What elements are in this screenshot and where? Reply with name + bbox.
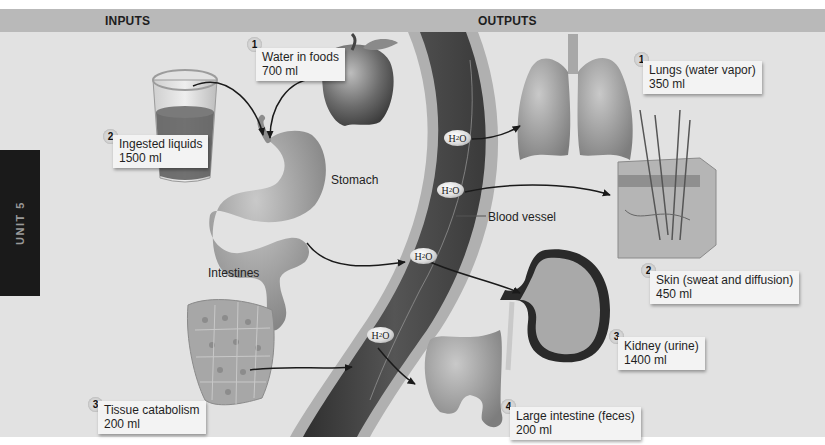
input-name: Ingested liquids: [119, 137, 202, 151]
input-callout-tissue-catabolism: Tissue catabolism 200 ml: [98, 401, 206, 434]
output-callout-large-intestine: Large intestine (feces) 200 ml: [510, 407, 641, 440]
output-name: Large intestine (feces): [516, 409, 635, 423]
input-name: Tissue catabolism: [104, 403, 200, 417]
output-amount: 450 ml: [656, 287, 793, 301]
water-molecule-badge: H2O: [367, 327, 394, 343]
output-amount: 1400 ml: [624, 353, 699, 367]
input-amount: 700 ml: [262, 64, 339, 78]
large-intestine-illustration: [425, 330, 503, 427]
blood-vessel-label: Blood vessel: [488, 210, 556, 224]
lungs-illustration: [518, 34, 633, 160]
output-callout-lungs: Lungs (water vapor) 350 ml: [643, 61, 762, 94]
water-molecule-badge: H2O: [444, 130, 471, 146]
intestines-label: Intestines: [208, 266, 259, 280]
output-callout-kidney: Kidney (urine) 1400 ml: [618, 337, 705, 370]
output-name: Skin (sweat and diffusion): [656, 273, 793, 287]
stomach-intestines-illustration: [209, 118, 326, 330]
output-name: Lungs (water vapor): [649, 63, 756, 77]
input-name: Water in foods: [262, 50, 339, 64]
input-amount: 200 ml: [104, 417, 200, 431]
tissue-cells-illustration: [187, 300, 274, 405]
input-callout-ingested-liquids: Ingested liquids 1500 ml: [113, 135, 208, 168]
stomach-label: Stomach: [331, 173, 378, 187]
output-callout-skin: Skin (sweat and diffusion) 450 ml: [650, 271, 799, 304]
water-molecule-badge: H2O: [410, 248, 437, 264]
input-callout-water-in-foods: Water in foods 700 ml: [256, 48, 345, 81]
output-amount: 350 ml: [649, 77, 756, 91]
kidney-illustration: [500, 249, 610, 370]
output-name: Kidney (urine): [624, 339, 699, 353]
water-molecule-badge: H2O: [437, 182, 464, 198]
input-amount: 1500 ml: [119, 151, 202, 165]
output-amount: 200 ml: [516, 423, 635, 437]
